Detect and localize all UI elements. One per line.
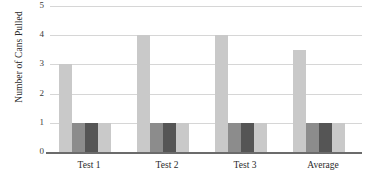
bar xyxy=(332,123,345,152)
x-axis-category-label: Test 1 xyxy=(50,160,128,170)
bar-chart: Number of Cans Pulled 543210 Test 1Test … xyxy=(0,0,371,187)
bar-group xyxy=(206,6,284,152)
bar xyxy=(137,35,150,152)
bar xyxy=(72,123,85,152)
bar xyxy=(59,64,72,152)
bar xyxy=(150,123,163,152)
x-axis-category-labels: Test 1Test 2Test 3Average xyxy=(50,160,362,170)
bar xyxy=(176,123,189,152)
bar xyxy=(319,123,332,152)
bar-group xyxy=(128,6,206,152)
bar xyxy=(228,123,241,152)
y-axis-tick-label: 3 xyxy=(22,59,44,68)
x-axis-category-label: Test 2 xyxy=(128,160,206,170)
y-axis-tick-label: 4 xyxy=(22,30,44,39)
bar xyxy=(293,50,306,152)
y-axis-tick-label: 5 xyxy=(22,1,44,10)
x-axis-category-label: Average xyxy=(284,160,362,170)
bar xyxy=(85,123,98,152)
x-axis-line xyxy=(46,152,362,154)
bar xyxy=(163,123,176,152)
y-axis-tick-label: 2 xyxy=(22,89,44,98)
bar-groups xyxy=(50,6,362,152)
x-axis-category-label: Test 3 xyxy=(206,160,284,170)
y-axis-tick-label: 1 xyxy=(22,118,44,127)
bar-group xyxy=(50,6,128,152)
bar xyxy=(98,123,111,152)
y-axis-tick-label: 0 xyxy=(22,147,44,156)
bar xyxy=(215,35,228,152)
bar xyxy=(306,123,319,152)
bar-group xyxy=(284,6,362,152)
bar xyxy=(241,123,254,152)
bar xyxy=(254,123,267,152)
